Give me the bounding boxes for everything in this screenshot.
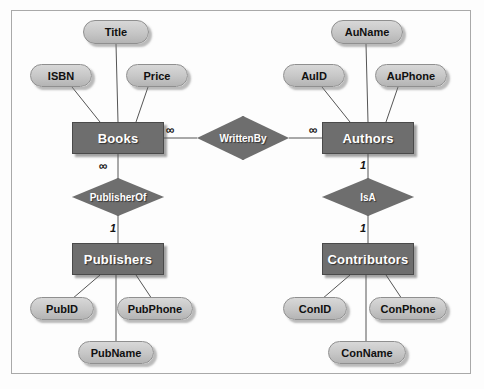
connector-line (72, 87, 100, 122)
connector-line (72, 275, 100, 299)
attribute-title[interactable]: Title (83, 20, 149, 44)
attribute-pubphone[interactable]: PubPhone (117, 297, 193, 320)
cardinality-authors-isa: 1 (360, 160, 366, 171)
connector-line (386, 87, 398, 122)
cardinality-contributors-isa: 1 (360, 223, 366, 234)
attribute-price[interactable]: Price (126, 64, 188, 87)
entity-authors[interactable]: Authors (322, 122, 414, 154)
attribute-conphone[interactable]: ConPhone (369, 297, 447, 320)
connector-line (386, 275, 402, 299)
connector-line (136, 275, 152, 299)
connector-line (322, 275, 350, 299)
connector-line (116, 44, 118, 122)
relationship-writtenby[interactable]: WrittenBy (197, 116, 289, 160)
connector-line (322, 87, 350, 122)
relationship-isa[interactable]: IsA (322, 178, 414, 216)
attribute-conid[interactable]: ConID (283, 297, 347, 320)
er-diagram-canvas: TitleISBNPriceAuNameAuIDAuPhonePubIDPubP… (0, 0, 484, 389)
relationship-label: WrittenBy (219, 133, 266, 144)
cardinality-books-writtenby: ∞ (166, 124, 175, 136)
relationship-publisherof[interactable]: PublisherOf (72, 178, 164, 216)
entity-publishers[interactable]: Publishers (72, 243, 164, 275)
connector-line (136, 87, 148, 122)
entity-contributors[interactable]: Contributors (322, 243, 414, 275)
cardinality-books-publisherof: ∞ (99, 160, 108, 172)
attribute-isbn[interactable]: ISBN (30, 64, 92, 87)
attribute-auid[interactable]: AuID (283, 64, 345, 87)
attribute-pubname[interactable]: PubName (78, 341, 154, 364)
attribute-auphone[interactable]: AuPhone (375, 64, 447, 87)
attribute-conname[interactable]: ConName (328, 341, 406, 364)
attribute-auname[interactable]: AuName (331, 20, 403, 44)
entity-books[interactable]: Books (72, 122, 164, 154)
relationship-label: PublisherOf (90, 192, 147, 203)
cardinality-authors-writtenby: ∞ (309, 124, 318, 136)
connector-line (366, 44, 368, 122)
relationship-label: IsA (360, 192, 376, 203)
cardinality-publishers-publisherof: 1 (110, 223, 116, 234)
attribute-pubid[interactable]: PubID (30, 297, 94, 320)
